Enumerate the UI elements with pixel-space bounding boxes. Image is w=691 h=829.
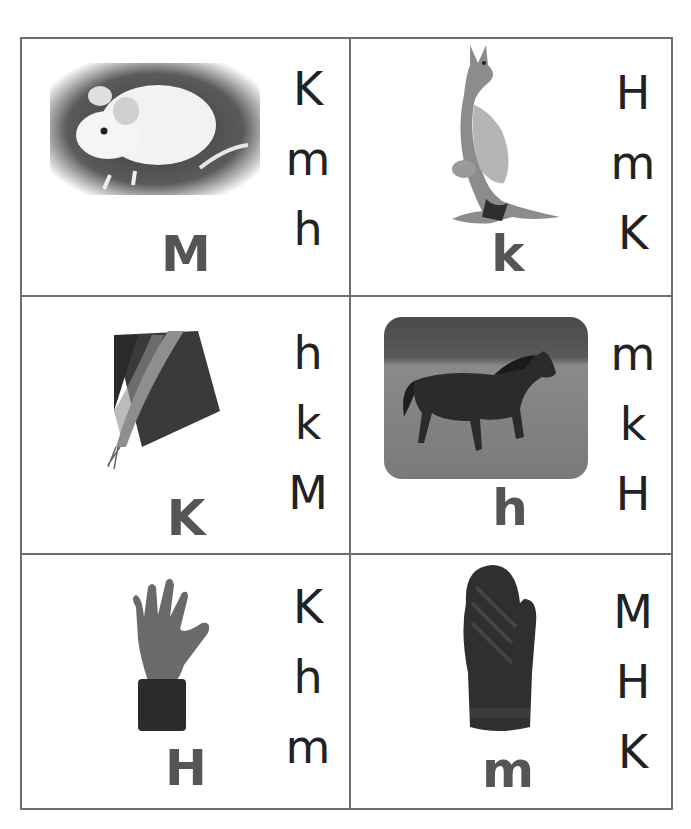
choice-letter[interactable]: h (293, 654, 322, 724)
card-kangaroo: k H m K (350, 39, 671, 295)
target-letter: m (478, 745, 538, 795)
card-kite: K h k M (22, 297, 348, 553)
target-letter: H (156, 743, 216, 793)
kite-picture (82, 331, 222, 491)
choice-letter[interactable]: h (293, 330, 322, 400)
card-horse: h m k H (350, 297, 671, 553)
kangaroo-picture (442, 41, 567, 231)
target-letter: k (478, 229, 538, 279)
choice-letter[interactable]: m (286, 724, 331, 794)
horse-picture (384, 317, 588, 479)
choice-letter[interactable]: k (620, 401, 647, 471)
choice-letter[interactable]: M (613, 589, 653, 659)
letter-choices: h k M (278, 330, 338, 540)
choice-letter[interactable]: k (295, 400, 322, 470)
target-letter: M (156, 229, 216, 279)
choice-letter[interactable]: K (618, 729, 648, 799)
choice-letter[interactable]: m (286, 136, 331, 206)
target-letter: K (156, 493, 216, 543)
mitten-picture (458, 563, 542, 735)
mouse-picture (50, 63, 260, 195)
choice-letter[interactable]: h (293, 206, 322, 276)
card-mouse: M K m h (22, 39, 348, 295)
letter-choices: H m K (603, 70, 663, 280)
choice-letter[interactable]: M (288, 470, 328, 540)
card-hand: H K h m (22, 555, 348, 809)
letter-choices: M H K (603, 589, 663, 799)
choice-letter[interactable]: K (293, 66, 323, 136)
choice-letter[interactable]: m (611, 140, 656, 210)
hand-picture (126, 577, 218, 737)
choice-letter[interactable]: H (616, 471, 651, 541)
choice-letter[interactable]: H (616, 659, 651, 729)
card-mitten: m M H K (350, 555, 671, 809)
letter-choices: K m h (278, 66, 338, 276)
letter-choices: m k H (603, 331, 663, 541)
choice-letter[interactable]: m (611, 331, 656, 401)
letter-choices: K h m (278, 584, 338, 794)
choice-letter[interactable]: K (293, 584, 323, 654)
choice-letter[interactable]: K (618, 210, 648, 280)
target-letter: h (480, 483, 540, 533)
choice-letter[interactable]: H (616, 70, 651, 140)
